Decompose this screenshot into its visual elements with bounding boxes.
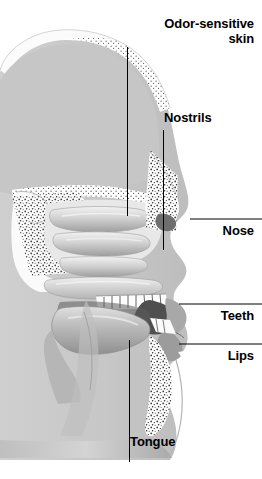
label-teeth: Teeth [160,308,254,323]
nasal-turbinates [50,206,151,277]
head-cross-section-illustration [0,0,262,479]
label-tongue: Tongue [130,434,254,449]
anatomy-figure: Odor-sensitive skin Nostrils Nose Teeth … [0,0,262,479]
label-nostrils: Nostrils [164,110,254,125]
label-nose: Nose [160,223,254,238]
label-odor-sensitive-skin: Odor-sensitive skin [128,16,254,46]
label-lips: Lips [160,348,254,363]
